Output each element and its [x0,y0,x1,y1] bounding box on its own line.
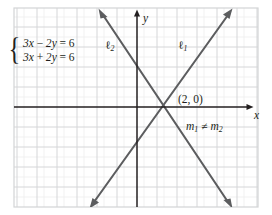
equation-1-equals: = [60,37,67,49]
system-of-equations: { 3x−2y=6 3x+2y=6 [7,36,75,64]
brace-symbol: { [8,36,20,64]
equations-list: 3x−2y=6 3x+2y=6 [23,36,75,64]
slope-m2: m [211,120,219,132]
equation-1-lhs-1: 3x [23,37,34,49]
equation-1-operator: − [37,37,44,49]
equation-2-operator: + [37,51,44,63]
equation-row-1: 3x−2y=6 [23,37,75,49]
figure-graph-two-lines: { 3x−2y=6 3x+2y=6 y x ℓ2 ℓ1 (2, 0) m1≠m2 [0,0,272,215]
equation-row-2: 3x+2y=6 [23,51,75,63]
equation-2-lhs-1: 3x [23,51,34,63]
line-label-l2: ℓ2 [105,40,114,53]
y-axis-label: y [143,13,148,25]
equation-1-lhs-2: 2y [46,37,57,49]
slope-m2-subscript: 2 [219,125,223,134]
line-label-l2-subscript: 2 [111,44,115,53]
equation-2-lhs-2: 2y [46,51,57,63]
equation-1-rhs: 6 [69,37,75,49]
equation-2-rhs: 6 [69,51,75,63]
coordinate-plane [0,0,272,215]
line-label-l1-subscript: 1 [184,44,188,53]
intersection-point-label: (2, 0) [178,94,203,106]
not-equal-icon: ≠ [201,120,207,132]
slope-m1-subscript: 1 [194,125,198,134]
x-axis-label: x [254,110,259,122]
slope-relation-label: m1≠m2 [186,121,223,134]
line-label-l1: ℓ1 [178,40,187,53]
equation-2-equals: = [60,51,67,63]
